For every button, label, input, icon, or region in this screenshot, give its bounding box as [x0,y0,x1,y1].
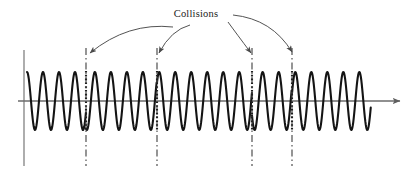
axes-group [18,50,400,166]
annotation-arrows-group [90,15,292,53]
collisions-label: Collisions [174,8,219,19]
arrow-to-collision-3 [228,22,251,53]
collision-markers-group [86,48,292,166]
arrow-to-collision-1 [90,26,173,53]
arrow-to-collision-2 [159,25,190,53]
waveform-figure: Collisions [0,0,411,174]
figure-canvas: Collisions [0,0,411,174]
arrow-to-collision-4 [233,15,292,52]
